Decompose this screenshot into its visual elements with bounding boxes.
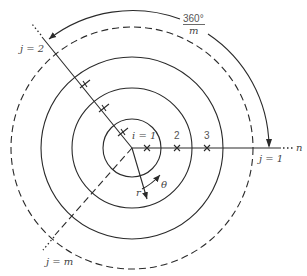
angle-label-numerator: 360° — [183, 13, 204, 24]
angle-arc-left — [49, 11, 180, 39]
radial-line-j2 — [42, 37, 132, 148]
angle-label-denominator: m — [189, 25, 198, 36]
label-r: r — [136, 187, 142, 198]
polar-grid-diagram: 360° m j = 2 j = 1 j = m i = 1 2 3 n r θ — [0, 0, 307, 276]
label-n: n — [296, 142, 302, 153]
label-jm: j = m — [44, 256, 73, 267]
label-i3: 3 — [204, 130, 210, 141]
label-i2: 2 — [174, 130, 180, 141]
node-marker — [99, 104, 109, 112]
radial-line-j2-dots — [32, 24, 41, 35]
angle-arc — [49, 11, 269, 146]
label-theta: θ — [161, 179, 167, 190]
label-i1: i = 1 — [132, 130, 156, 141]
arrowhead-j1 — [266, 139, 272, 148]
label-j2: j = 2 — [18, 43, 44, 54]
node-marker — [80, 80, 90, 88]
radial-line-jm — [55, 148, 132, 235]
theta-arrow — [142, 175, 160, 189]
label-j1: j = 1 — [257, 153, 283, 164]
